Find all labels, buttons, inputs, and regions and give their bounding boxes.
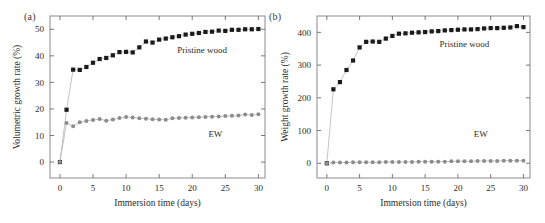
svg-text:50: 50 [35,24,45,34]
svg-text:Pristine wood: Pristine wood [177,45,227,55]
svg-text:400: 400 [298,28,312,38]
svg-text:20: 20 [188,183,198,193]
svg-text:0: 0 [40,157,45,167]
svg-text:5: 5 [91,183,96,193]
panel-a-y-axis-title: Volumetric growth rate (%) [12,45,22,150]
svg-text:10: 10 [388,183,398,193]
svg-text:Pristine wood: Pristine wood [440,39,490,49]
svg-text:10: 10 [35,131,45,141]
svg-text:30: 30 [519,183,529,193]
svg-text:0: 0 [307,158,312,168]
panel-a-x-axis-title: Immersion time (days) [114,198,201,208]
svg-text:EW: EW [474,129,488,139]
panel-a-plot: 05101520253001020304050Pristine woodEW [0,0,272,223]
svg-text:25: 25 [221,183,231,193]
figure-container: (a) 05101520253001020304050Pristine wood… [0,0,545,223]
panel-b-plot: 0510152025300100200300400Pristine woodEW [272,0,544,223]
svg-text:5: 5 [357,183,362,193]
svg-text:30: 30 [254,183,264,193]
svg-text:300: 300 [298,60,312,70]
panel-b-x-axis-title: Immersion time (days) [380,198,467,208]
svg-text:15: 15 [421,183,431,193]
svg-text:100: 100 [298,126,312,136]
panel-b: (b) 0510152025300100200300400Pristine wo… [272,0,544,223]
svg-text:25: 25 [486,183,496,193]
svg-text:20: 20 [453,183,463,193]
panel-b-y-axis-title: Weight growth rate (%) [280,52,290,142]
panel-a: (a) 05101520253001020304050Pristine wood… [0,0,272,223]
svg-text:15: 15 [155,183,165,193]
svg-text:10: 10 [122,183,132,193]
svg-text:0: 0 [58,183,63,193]
svg-text:EW: EW [208,129,222,139]
svg-text:40: 40 [35,51,45,61]
svg-text:200: 200 [298,93,312,103]
svg-text:20: 20 [35,104,45,114]
svg-text:0: 0 [325,183,330,193]
svg-text:30: 30 [35,78,45,88]
